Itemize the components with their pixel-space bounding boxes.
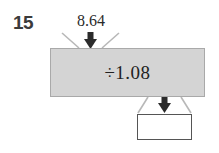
input-down-arrow-icon [84, 32, 97, 49]
function-machine-diagram: 15 8.64 ÷1.08 [0, 0, 219, 153]
input-funnel-left-line [62, 33, 79, 48]
input-funnel-right-line [102, 33, 119, 48]
output-down-arrow-icon [158, 96, 171, 113]
output-funnel-left-line [138, 97, 148, 113]
answer-input-box[interactable] [137, 114, 192, 140]
output-funnel-right-line [181, 97, 191, 113]
operation-label: ÷1.08 [50, 48, 205, 97]
